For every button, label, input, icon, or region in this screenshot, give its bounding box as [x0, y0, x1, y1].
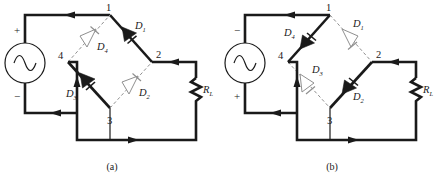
source-plus-b: + — [234, 90, 240, 102]
node-label-2-a: 2 — [156, 49, 161, 60]
source-plus-a: + — [14, 24, 20, 36]
source-minus-b: − — [234, 24, 240, 36]
bridge-rectifier-figure: .hw{stroke:#1a1a1a;stroke-width:2.6;fill… — [0, 0, 439, 186]
source-minus-a: − — [14, 90, 20, 102]
node-label-1-a: 1 — [106, 2, 111, 13]
figure-canvas: .hw{stroke:#1a1a1a;stroke-width:2.6;fill… — [0, 0, 439, 186]
node-label-1-b: 1 — [326, 2, 331, 13]
node-label-4-b: 4 — [278, 50, 284, 61]
node-label-2-b: 2 — [376, 49, 381, 60]
caption-a: (a) — [106, 161, 117, 173]
caption-b: (b) — [326, 161, 338, 173]
node-label-4-a: 4 — [58, 50, 64, 61]
